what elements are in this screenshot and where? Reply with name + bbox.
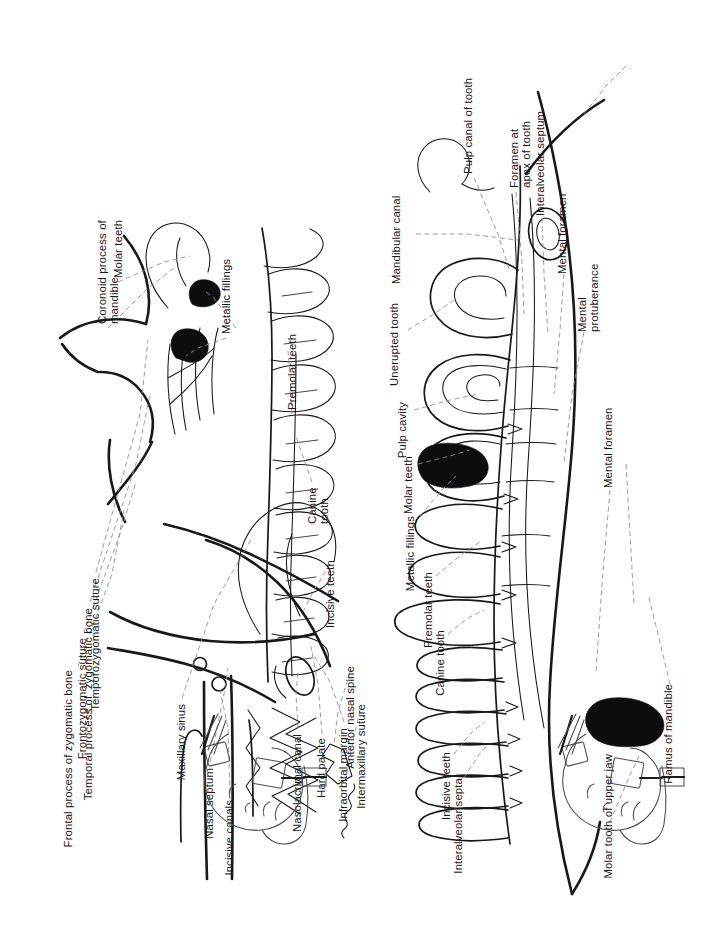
label-incisive-teeth-upper: Incisive teeth [324, 536, 336, 628]
label-metallic-fillings-upper: Metallic fillings [220, 226, 232, 334]
head-positioning-upper-drawing [188, 712, 314, 882]
label-frontal-process-of-zygomatic-bone: Frontal process of zygomatic bone [62, 670, 74, 920]
label-mandibular-canal: Mandibular canal [390, 156, 402, 284]
label-mental-protuberance-line2: protuberance [588, 222, 600, 332]
label-canine-tooth-lower: Canine tooth [434, 630, 446, 734]
head-positioning-lower-drawing [546, 712, 672, 882]
anatomy-plate: Frontal process of zygomatic bone Fronto… [0, 0, 718, 934]
label-canine-tooth-upper-line1: Canine [306, 466, 318, 524]
label-coronoid-process-line1: Coronoid process of [96, 194, 108, 324]
head-outline-icon [205, 734, 308, 844]
label-premolar-teeth-upper: Premolar teeth [286, 306, 298, 410]
label-mental-foramen-top: Mental foramen [556, 166, 568, 274]
label-metallic-fillings-lower: Metallic fillings [404, 516, 416, 626]
label-molar-teeth-upper: Molar teeth [112, 188, 124, 278]
label-maxillary-sinus: Maxillary sinus [175, 704, 187, 812]
label-temporozygomatic-suture: Temporozygomatic suture [89, 578, 101, 794]
label-pulp-canal-of-tooth: Pulp canal of tooth [462, 48, 474, 174]
label-canine-tooth-upper-line2: tooth [318, 466, 330, 524]
head-outline-icon [563, 734, 666, 844]
positioning-thumbnail-upper [188, 712, 314, 882]
label-interalveolar-septa: Interalveolar septa [452, 778, 464, 896]
label-mental-foramen-bottom: Mental foramen [602, 380, 614, 488]
label-premolar-teeth-lower: Premolar teeth [422, 572, 434, 682]
label-unerupted-tooth: Unerupted tooth [388, 266, 400, 386]
label-incisive-teeth-lower: Incisive teeth [440, 752, 452, 856]
label-foramen-at-apex-line2: apex of tooth [520, 82, 532, 188]
label-mental-protuberance-line1: Mental [576, 236, 588, 332]
positioning-thumbnail-lower [546, 712, 672, 882]
label-interalveolar-septum: Interalveolar septum [534, 80, 546, 216]
figure-page: Frontal process of zygomatic bone Fronto… [0, 0, 718, 934]
label-foramen-at-apex-line1: Foramen at [508, 82, 520, 188]
